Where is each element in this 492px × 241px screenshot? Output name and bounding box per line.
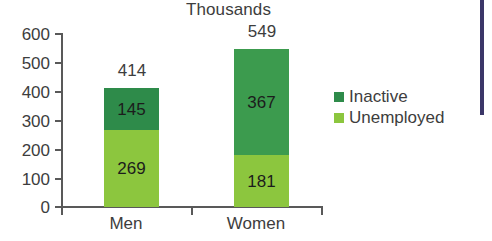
y-axis-label-200: 200	[2, 142, 50, 159]
legend-swatch-inactive	[334, 92, 344, 102]
stacked-bar-chart: Thousands 600 500 400 300 200 100 0 Men …	[0, 0, 492, 241]
y-axis-label-300: 300	[2, 113, 50, 130]
right-edge-strip	[480, 0, 484, 115]
y-axis-label-0: 0	[2, 199, 50, 216]
bar-women-label-inactive: 367	[247, 94, 275, 111]
y-axis-tick-600	[55, 33, 62, 35]
y-axis-label-600: 600	[2, 26, 50, 43]
legend-label-inactive: Inactive	[349, 88, 408, 105]
chart-title: Thousands	[186, 0, 306, 20]
bar-women-total-label: 549	[202, 23, 322, 40]
bar-men-label-unemployed: 269	[117, 160, 145, 177]
y-axis-tick-300	[55, 120, 62, 122]
y-axis-label-500: 500	[2, 55, 50, 72]
y-axis-label-400: 400	[2, 84, 50, 101]
bar-men-label-inactive: 145	[117, 101, 145, 118]
x-axis-tick-start	[61, 206, 63, 215]
legend-label-unemployed: Unemployed	[349, 109, 444, 126]
y-axis-tick-500	[55, 62, 62, 64]
x-axis-tick-middle	[191, 206, 193, 215]
x-axis-tick-end	[321, 206, 323, 215]
bar-women[interactable]: 367 181	[234, 49, 289, 207]
y-axis-label-100: 100	[2, 171, 50, 188]
bar-women-segment-unemployed[interactable]: 181	[234, 155, 289, 207]
chart-legend: Inactive Unemployed	[334, 86, 444, 128]
y-axis-tick-100	[55, 178, 62, 180]
bar-men[interactable]: 145 269	[104, 88, 159, 207]
y-axis-tick-400	[55, 91, 62, 93]
legend-swatch-unemployed	[334, 113, 344, 123]
legend-item-inactive[interactable]: Inactive	[334, 86, 444, 107]
bar-men-total-label: 414	[72, 62, 192, 79]
bar-women-label-unemployed: 181	[247, 173, 275, 190]
bar-men-segment-unemployed[interactable]: 269	[104, 130, 159, 207]
bar-men-segment-inactive[interactable]: 145	[104, 88, 159, 130]
x-axis-label-women: Women	[201, 214, 311, 234]
bar-women-segment-inactive[interactable]: 367	[234, 49, 289, 155]
x-axis-label-men: Men	[71, 214, 181, 234]
y-axis-tick-200	[55, 149, 62, 151]
legend-item-unemployed[interactable]: Unemployed	[334, 107, 444, 128]
